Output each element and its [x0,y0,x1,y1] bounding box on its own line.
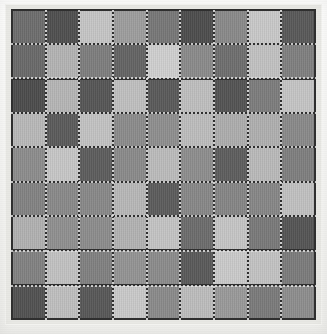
grid-cell [282,45,314,77]
grid-cell [215,251,247,283]
grid-cell [181,45,213,77]
grid-cell [181,217,213,249]
grid-cell [249,251,281,283]
grid-cell [13,251,45,283]
grid-cell [249,80,281,112]
grid-cell [47,80,79,112]
grid-cell [148,45,180,77]
grid-cell [47,251,79,283]
grid-cell [181,11,213,43]
grid-cell [181,148,213,180]
grid-cell [249,114,281,146]
grid-cell [249,11,281,43]
grid-cell [148,80,180,112]
grid-cell [215,217,247,249]
grid-cell [148,217,180,249]
grid-cell [148,183,180,215]
grid-cell [282,114,314,146]
grid-cell [181,251,213,283]
grid-cell [215,114,247,146]
grid-cell [114,45,146,77]
grid-cell [148,286,180,318]
grid-container [11,9,316,320]
grid-cell [114,217,146,249]
grid-cell [80,114,112,146]
grid-cell [282,148,314,180]
grid-cell [80,183,112,215]
grid-cell [114,11,146,43]
grid-cell [215,80,247,112]
grid-cell [80,217,112,249]
grid-cell [249,286,281,318]
grid-cell [148,11,180,43]
grid-cell [282,251,314,283]
grid-cell [80,286,112,318]
grid-cell [47,11,79,43]
grid-cell [13,217,45,249]
grid-cell [282,11,314,43]
grid-cell [80,148,112,180]
grid-cell [215,11,247,43]
grid-cell [249,148,281,180]
grayscale-grid [11,9,316,320]
grid-cell [47,286,79,318]
grid-cell [47,183,79,215]
grid-cell [13,11,45,43]
grid-cell [249,45,281,77]
grid-cell [80,80,112,112]
grid-cell [13,80,45,112]
grid-cell [249,183,281,215]
grid-cell [13,286,45,318]
grid-cell [114,114,146,146]
grid-cell [114,251,146,283]
grid-cell [148,148,180,180]
grid-cell [13,114,45,146]
grid-cell [282,286,314,318]
grid-cell [47,114,79,146]
scan-canvas [0,0,327,334]
grid-cell [215,286,247,318]
grid-cell [114,80,146,112]
grid-cell [181,114,213,146]
grid-cell [114,286,146,318]
grid-cell [215,148,247,180]
grid-cell [249,217,281,249]
grid-cell [181,80,213,112]
grid-cell [215,183,247,215]
grid-cell [47,148,79,180]
grid-cell [114,148,146,180]
grid-cell [80,11,112,43]
grid-cell [282,80,314,112]
grid-cell [215,45,247,77]
grid-cell [114,183,146,215]
grid-cell [148,114,180,146]
grid-cell [181,183,213,215]
grid-cell [13,183,45,215]
grid-cell [282,217,314,249]
grid-cell [47,45,79,77]
grid-cell [47,217,79,249]
grid-cell [148,251,180,283]
grid-cell [181,286,213,318]
grid-cell [80,45,112,77]
grid-cell [13,148,45,180]
grid-cell [282,183,314,215]
grid-cell [13,45,45,77]
grid-cell [80,251,112,283]
